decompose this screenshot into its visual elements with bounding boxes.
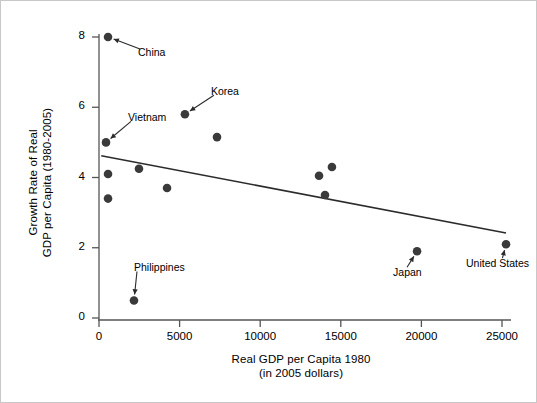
point-label-philippines: Philippines: [134, 261, 185, 273]
x-tick-label: 10000: [220, 330, 300, 342]
data-point-philippines: [130, 296, 139, 305]
y-tick-label: 8: [63, 29, 85, 41]
regression-line: [101, 156, 506, 233]
annotation-arrow-head: [190, 106, 196, 111]
axis-ticks: [92, 37, 502, 327]
x-tick-label: 5000: [140, 330, 220, 342]
data-point: [328, 163, 337, 172]
x-tick-label: 20000: [381, 330, 461, 342]
x-axis-title-line1: Real GDP per Capita 1980: [232, 353, 371, 365]
data-point: [315, 171, 324, 180]
data-point-vietnam: [102, 138, 111, 147]
scatter-plot-figure: Real GDP per Capita 1980(in 2005 dollars…: [0, 0, 537, 403]
x-tick-label: 15000: [301, 330, 381, 342]
data-point: [135, 164, 144, 173]
data-point-united-states: [502, 240, 511, 249]
data-point: [163, 184, 172, 193]
x-tick-label: 0: [59, 330, 139, 342]
point-label-china: China: [138, 46, 165, 58]
point-label-korea: Korea: [211, 85, 239, 97]
annotation-arrows: [111, 38, 506, 294]
point-label-japan: Japan: [393, 266, 422, 278]
x-axis-title-line2: (in 2005 dollars): [259, 367, 343, 379]
x-tick-label: 25000: [462, 330, 537, 342]
point-label-vietnam: Vietnam: [128, 111, 166, 123]
data-point: [213, 133, 222, 142]
data-point: [321, 191, 330, 200]
y-tick-label: 0: [63, 310, 85, 322]
data-point: [104, 194, 113, 203]
y-tick-label: 2: [63, 240, 85, 252]
fit-line: [101, 156, 506, 233]
y-axis-title-line1: Growth Rate of Real: [27, 129, 39, 235]
data-point-japan: [413, 247, 422, 256]
point-label-united-states: United States: [466, 257, 529, 269]
y-axis-title-line2: GDP per Capita (1980-2005): [40, 108, 52, 257]
y-tick-label: 4: [63, 170, 85, 182]
x-axis-title: Real GDP per Capita 1980(in 2005 dollars…: [99, 353, 503, 380]
annotation-arrow-head: [501, 250, 506, 256]
y-tick-label: 6: [63, 99, 85, 111]
data-point-korea: [181, 110, 190, 119]
data-point: [104, 170, 113, 179]
y-axis-title: Growth Rate of RealGDP per Capita (1980-…: [27, 58, 54, 308]
data-point-china: [104, 33, 113, 42]
plot-canvas: [1, 1, 537, 403]
